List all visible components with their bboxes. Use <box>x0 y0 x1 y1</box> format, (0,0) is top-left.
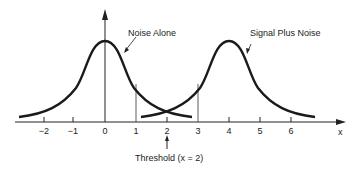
tick-label-5: 5 <box>250 126 270 136</box>
tick-label-3: 3 <box>188 126 208 136</box>
noise-alone-label: Noise Alone <box>128 28 176 38</box>
signal-plus-noise-label: Signal Plus Noise <box>250 28 321 38</box>
y-axis-arrow-icon <box>102 9 108 20</box>
noise-signal-diagram: Noise Alone Signal Plus Noise −2 −1 0 1 … <box>0 0 362 176</box>
tick-label-6: 6 <box>281 126 301 136</box>
tick-label-neg2: −2 <box>34 126 54 136</box>
signal-plus-noise-curve <box>141 41 315 117</box>
y-axis <box>102 9 108 122</box>
x-axis-arrow-icon <box>336 119 346 125</box>
tick-label-1: 1 <box>126 126 146 136</box>
tick-label-2: 2 <box>157 126 177 136</box>
x-axis-label: x <box>338 127 343 137</box>
diagram-canvas <box>0 0 362 176</box>
tick-label-0: 0 <box>95 126 115 136</box>
x-axis <box>15 117 346 125</box>
tick-label-4: 4 <box>219 126 239 136</box>
tick-label-neg1: −1 <box>63 126 83 136</box>
threshold-label: Threshold (x = 2) <box>135 153 203 163</box>
